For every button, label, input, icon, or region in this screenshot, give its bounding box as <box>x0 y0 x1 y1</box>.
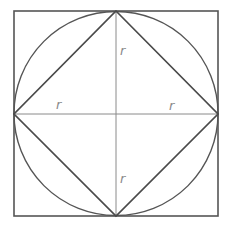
geometry-diagram: r r r r <box>0 0 233 228</box>
label-radius-bottom: r <box>120 171 127 186</box>
label-radius-top: r <box>120 43 127 58</box>
label-radius-left: r <box>56 97 63 112</box>
label-radius-right: r <box>169 98 176 113</box>
